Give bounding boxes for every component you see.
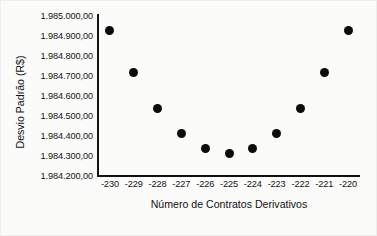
y-tick-label: 1.984.700,00 [41, 71, 93, 81]
x-tick-label: -223 [268, 179, 286, 189]
data-point [225, 149, 234, 158]
data-point [153, 104, 162, 113]
data-point [320, 68, 329, 77]
x-tick-label: -229 [125, 179, 143, 189]
y-tick-label: 1.985.000,00 [41, 11, 93, 21]
plot-area [98, 16, 360, 176]
x-tick-label: -220 [339, 179, 357, 189]
data-point [105, 26, 114, 35]
x-tick-label: -221 [315, 179, 333, 189]
data-point [201, 144, 210, 153]
x-tick-label: -222 [291, 179, 309, 189]
data-point [272, 129, 281, 138]
x-axis-title: Número de Contratos Derivativos [98, 198, 360, 210]
data-point [248, 144, 257, 153]
chart-figure: 1.985.000,001.984.900,001.984.800,001.98… [0, 0, 377, 236]
x-tick-label: -224 [244, 179, 262, 189]
y-tick-label: 1.984.500,00 [41, 111, 93, 121]
data-point [177, 129, 186, 138]
data-point [129, 68, 138, 77]
y-tick-label: 1.984.200,00 [41, 171, 93, 181]
x-axis-tick-labels: -230-229-228-227-226-225-224-223-222-221… [98, 179, 360, 195]
y-tick-label: 1.984.600,00 [41, 91, 93, 101]
y-tick-label: 1.984.900,00 [41, 31, 93, 41]
x-tick-label: -226 [196, 179, 214, 189]
x-tick-label: -225 [220, 179, 238, 189]
y-axis-title: Desvio Padrão (R$) [14, 22, 26, 182]
y-tick-label: 1.984.400,00 [41, 131, 93, 141]
data-point [344, 26, 353, 35]
x-tick-label: -228 [149, 179, 167, 189]
y-tick-label: 1.984.800,00 [41, 51, 93, 61]
x-tick-label: -227 [172, 179, 190, 189]
y-tick-label: 1.984.300,00 [41, 151, 93, 161]
x-tick-label: -230 [101, 179, 119, 189]
data-point [296, 104, 305, 113]
